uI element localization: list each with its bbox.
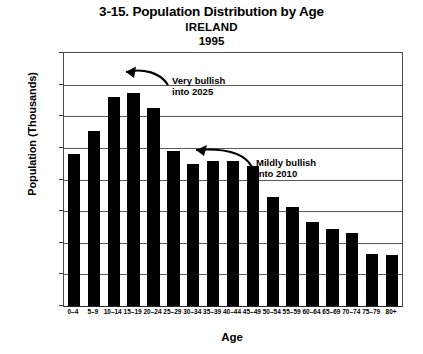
y-axis-tick-mark	[59, 179, 63, 180]
bar	[306, 222, 318, 306]
x-axis-tick-label: 45–49	[243, 308, 261, 315]
bar	[187, 164, 199, 306]
x-axis-tick-label: 5–9	[87, 308, 98, 315]
y-axis-tick-mark	[59, 305, 63, 306]
chart-subtitle-year: 1995	[0, 34, 423, 48]
chart-title: 3-15. Population Distribution by Age	[0, 4, 423, 20]
x-axis-tick-label: 40–44	[223, 308, 241, 315]
y-axis-tick-mark	[59, 147, 63, 148]
x-axis-title: Age	[63, 331, 401, 343]
y-axis-tick-mark	[59, 273, 63, 274]
bar	[88, 131, 100, 306]
bar	[267, 197, 279, 306]
bar	[366, 254, 378, 306]
bar	[68, 154, 80, 306]
y-axis-tick-mark	[59, 210, 63, 211]
x-axis-tick-label: 30–34	[183, 308, 201, 315]
bar	[247, 166, 259, 306]
bar	[167, 151, 179, 306]
bar	[286, 207, 298, 306]
x-axis-tick-label: 55–59	[283, 308, 301, 315]
y-axis-tick-mark	[59, 52, 63, 53]
chart-figure: 3-15. Population Distribution by Age IRE…	[0, 0, 423, 354]
annotation-very-bullish: Very bullish into 2025	[172, 75, 225, 97]
x-axis-tick-label: 35–39	[203, 308, 221, 315]
y-axis-title: Population (Thousands)	[26, 44, 38, 224]
bar	[108, 97, 120, 306]
x-axis-tick-label: 65–69	[322, 308, 340, 315]
x-axis-ticks: 0–45–910–1415–1920–2425–2930–3435–3940–4…	[63, 308, 401, 324]
x-axis-tick-label: 20–24	[143, 308, 161, 315]
bar	[386, 255, 398, 306]
bar	[127, 93, 139, 306]
x-axis-tick-label: 0–4	[68, 308, 79, 315]
chart-title-block: 3-15. Population Distribution by Age IRE…	[0, 4, 423, 48]
bar	[207, 161, 219, 306]
x-axis-tick-label: 70–74	[342, 308, 360, 315]
x-axis-tick-label: 50–54	[263, 308, 281, 315]
x-axis-tick-label: 75–79	[362, 308, 380, 315]
x-axis-tick-label: 25–29	[163, 308, 181, 315]
bar	[326, 229, 338, 306]
x-axis-tick-label: 10–14	[104, 308, 122, 315]
bar	[147, 108, 159, 306]
x-axis-tick-label: 80+	[386, 308, 397, 315]
chart-subtitle-country: IRELAND	[0, 20, 423, 34]
y-axis-tick-mark	[59, 115, 63, 116]
annotation-mildly-bullish: Mildly bullish into 2010	[256, 157, 316, 179]
bar	[346, 233, 358, 306]
plot-area	[63, 52, 403, 307]
bar	[227, 161, 239, 306]
x-axis-tick-label: 60–64	[302, 308, 320, 315]
y-axis-tick-mark	[59, 84, 63, 85]
y-axis-tick-mark	[59, 242, 63, 243]
x-axis-tick-label: 15–19	[124, 308, 142, 315]
bar-series	[64, 53, 402, 306]
